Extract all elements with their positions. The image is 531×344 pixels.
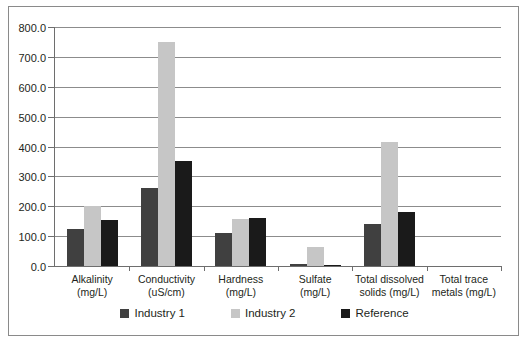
y-axis-tick-label: 600.0 xyxy=(2,83,46,94)
y-axis-tick-label: 800.0 xyxy=(2,23,46,34)
bar[interactable] xyxy=(290,264,307,266)
bar[interactable] xyxy=(364,224,381,266)
legend-swatch-icon xyxy=(231,309,240,318)
bar[interactable] xyxy=(158,42,175,266)
bar-group xyxy=(204,27,278,266)
bar-group xyxy=(352,27,426,266)
bar[interactable] xyxy=(324,265,341,266)
bar[interactable] xyxy=(232,219,249,266)
chart-legend: Industry 1Industry 2Reference xyxy=(9,307,520,319)
x-axis-tick xyxy=(501,266,502,271)
x-axis-tick xyxy=(427,266,428,271)
legend-swatch-icon xyxy=(120,309,129,318)
chart-frame: 0.0100.0200.0300.0400.0500.0600.0700.080… xyxy=(8,6,519,336)
bar[interactable] xyxy=(215,233,232,266)
y-axis-tick-label: 300.0 xyxy=(2,172,46,183)
bar[interactable] xyxy=(249,218,266,266)
bar-group xyxy=(129,27,203,266)
bar-group xyxy=(55,27,129,266)
x-axis-category-label: Alkalinity(mg/L) xyxy=(55,273,129,298)
bar[interactable] xyxy=(141,188,158,266)
plot-area xyxy=(55,27,501,266)
x-axis-tick xyxy=(278,266,279,271)
bar[interactable] xyxy=(101,220,118,266)
legend-item[interactable]: Industry 2 xyxy=(231,307,296,319)
bar[interactable] xyxy=(398,212,415,266)
x-axis-category-label: Sulfate(mg/L) xyxy=(278,273,352,298)
legend-swatch-icon xyxy=(341,309,350,318)
legend-label: Reference xyxy=(355,307,408,319)
legend-label: Industry 1 xyxy=(134,307,185,319)
legend-item[interactable]: Reference xyxy=(341,307,408,319)
x-axis-category-label: Hardness(mg/L) xyxy=(204,273,278,298)
legend-item[interactable]: Industry 1 xyxy=(120,307,185,319)
y-axis-tick-label: 0.0 xyxy=(2,262,46,273)
bar-group xyxy=(427,27,501,266)
y-axis-tick-label: 100.0 xyxy=(2,232,46,243)
bar[interactable] xyxy=(175,161,192,266)
bar-group xyxy=(278,27,352,266)
y-axis-tick-label: 200.0 xyxy=(2,202,46,213)
bar[interactable] xyxy=(307,247,324,266)
x-axis-tick xyxy=(352,266,353,271)
x-axis-category-label: Total tracemetals (mg/L) xyxy=(427,273,501,298)
x-axis-category-label: Conductivity(uS/cm) xyxy=(129,273,203,298)
y-axis-tick-label: 700.0 xyxy=(2,53,46,64)
x-axis-category-label: Total dissolvedsolids (mg/L) xyxy=(352,273,426,298)
legend-label: Industry 2 xyxy=(245,307,296,319)
x-axis-tick xyxy=(129,266,130,271)
bar[interactable] xyxy=(381,142,398,266)
x-axis-tick xyxy=(204,266,205,271)
bar[interactable] xyxy=(84,206,101,266)
y-axis-tick-label: 400.0 xyxy=(2,143,46,154)
y-axis-tick-label: 500.0 xyxy=(2,113,46,124)
bar[interactable] xyxy=(67,229,84,266)
